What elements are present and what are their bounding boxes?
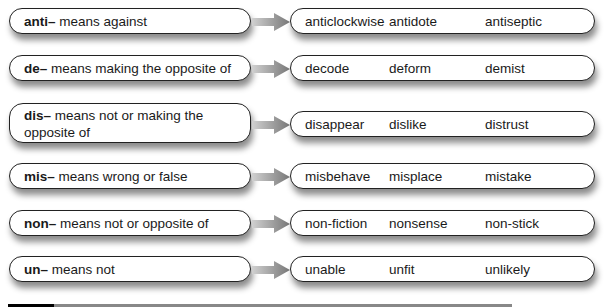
prefix-row-non: non– means not or opposite of non-fictio… [0,207,607,247]
arrow-right-icon [252,168,290,186]
prefix-meaning: means making the opposite of [47,61,231,76]
arrow-right-icon [252,60,290,78]
arrow-right-icon [252,261,290,279]
prefix-meaning: means against [56,14,148,29]
example-word: antidote [389,14,437,29]
example-word: unable [305,262,346,277]
examples-box: disappear dislike distrust [290,111,595,137]
prefix-definition-box: de– means making the opposite of [9,55,251,81]
example-word: misbehave [305,169,370,184]
prefix-definition-box: non– means not or opposite of [9,210,251,236]
prefix-definition-box: mis– means wrong or false [9,163,251,189]
example-word: decode [305,61,349,76]
arrow-right-icon [252,215,290,233]
example-word: misplace [389,169,442,184]
prefix-meaning: means wrong or false [55,169,188,184]
prefix-meaning: means not [48,262,115,277]
examples-box: non-fiction nonsense non-stick [290,210,595,236]
prefix-row-un: un– means not unable unfit unlikely [0,253,607,293]
example-word: dislike [389,117,427,132]
example-word: unlikely [485,262,530,277]
prefix-meaning: means not or making the opposite of [24,108,203,140]
example-word: demist [485,61,525,76]
examples-box: decode deform demist [290,55,595,81]
prefix-definition-box: dis– means not or making the opposite of [9,103,251,143]
example-word: antiseptic [485,14,542,29]
prefix-label: non– [24,216,56,231]
example-word: anticlockwise [305,14,385,29]
example-word: deform [389,61,431,76]
examples-box: anticlockwise antidote antiseptic [290,8,595,34]
prefix-label: un– [24,262,48,277]
example-word: non-stick [485,216,539,231]
prefix-label: dis– [24,108,51,123]
prefix-label: de– [24,61,47,76]
prefix-row-dis: dis– means not or making the opposite of… [0,100,607,146]
prefix-row-de: de– means making the opposite of decode … [0,51,607,91]
prefix-definition-box: anti– means against [9,8,251,34]
example-word: disappear [305,117,364,132]
prefix-row-mis: mis– means wrong or false misbehave misp… [0,160,607,200]
arrow-right-icon [252,13,290,31]
example-word: nonsense [389,216,448,231]
examples-box: unable unfit unlikely [290,256,595,282]
arrow-right-icon [252,116,290,134]
prefix-row-anti: anti– means against anticlockwise antido… [0,5,607,45]
example-word: distrust [485,117,529,132]
prefix-label: anti– [24,14,56,29]
example-word: unfit [389,262,415,277]
example-word: non-fiction [305,216,367,231]
example-word: mistake [485,169,532,184]
prefix-definition-box: un– means not [9,256,251,282]
prefix-label: mis– [24,169,55,184]
examples-box: misbehave misplace mistake [290,163,595,189]
prefix-meaning: means not or opposite of [56,216,208,231]
